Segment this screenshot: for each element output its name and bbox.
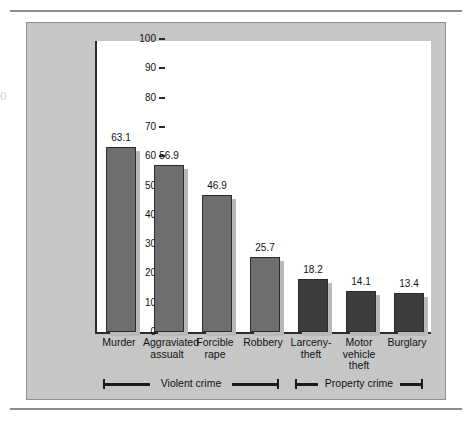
x-axis-category-label: Aggraviated assualt [143, 337, 191, 360]
bar-value-label: 13.4 [399, 278, 418, 290]
y-axis-tick-mark [159, 38, 165, 40]
bracket-line-right [232, 383, 278, 386]
y-axis-tick-label: 70 [145, 120, 156, 133]
y-axis-tick-label: 90 [145, 61, 156, 74]
group-bracket: Violent crime [103, 378, 279, 390]
y-axis-tick-label: 60 [145, 149, 156, 162]
bar-body [298, 279, 328, 332]
x-axis-category-label: Larceny- theft [287, 337, 335, 360]
page-rule-top [10, 10, 462, 12]
x-axis-category-label: Burglary [383, 337, 431, 349]
bar-body [346, 291, 376, 332]
y-axis-tick-mark [159, 67, 165, 69]
scan-artifact: 0 [0, 88, 9, 104]
bar-body [106, 147, 136, 332]
bar-value-label: 46.9 [207, 180, 226, 192]
page-rule-bottom [10, 408, 462, 410]
bar[interactable]: 63.1 [106, 147, 136, 332]
bracket-line-left [104, 383, 150, 386]
bar-body [202, 195, 232, 332]
bar-body [394, 293, 424, 332]
bar[interactable]: 46.9 [202, 195, 232, 332]
bar[interactable]: 14.1 [346, 291, 376, 332]
bar-value-label: 56.9 [159, 150, 178, 162]
y-axis-tick-label: 80 [145, 91, 156, 104]
x-axis-category-label: Forcible rape [191, 337, 239, 360]
x-axis-category-label: Robbery [239, 337, 287, 349]
bracket-line-right [400, 383, 422, 386]
y-axis-tick-label: 100 [139, 32, 156, 45]
bar[interactable]: 18.2 [298, 279, 328, 332]
x-axis-category-label: Murder [95, 337, 143, 349]
group-bracket-label: Property crime [321, 376, 397, 390]
bar-value-label: 18.2 [303, 264, 322, 276]
bar-body [250, 257, 280, 332]
y-axis-tick-mark [159, 126, 165, 128]
x-axis-category-label: Motor vehicle theft [335, 337, 383, 372]
bar-body [154, 165, 184, 332]
y-axis-tick-mark [159, 97, 165, 99]
bar-value-label: 14.1 [351, 276, 370, 288]
bar-value-label: 25.7 [255, 242, 274, 254]
plot-area: 1009080706050403020100 63.156.946.925.71… [95, 41, 431, 334]
figure-panel: 1009080706050403020100 63.156.946.925.71… [26, 22, 446, 400]
bracket-line-left [296, 383, 318, 386]
group-bracket-label: Violent crime [157, 376, 226, 390]
group-bracket: Property crime [295, 378, 423, 390]
bar-value-label: 63.1 [111, 132, 130, 144]
bar[interactable]: 25.7 [250, 257, 280, 332]
bar[interactable]: 56.9 [154, 165, 184, 332]
bar[interactable]: 13.4 [394, 293, 424, 332]
